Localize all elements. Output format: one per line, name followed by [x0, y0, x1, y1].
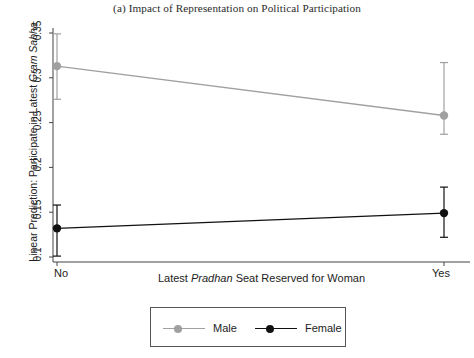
y-axis-tick-label: 0.25: [32, 105, 43, 135]
chart-legend: MaleFemale: [150, 307, 346, 347]
legend-line-swatch: [255, 328, 297, 329]
data-point-marker: [53, 62, 61, 70]
x-axis-tick-label: Yes: [432, 267, 450, 279]
legend-label: Female: [305, 322, 342, 334]
legend-label: Male: [213, 322, 237, 334]
legend-marker-dot: [174, 325, 182, 333]
legend-line-swatch: [163, 328, 205, 329]
series-line: [57, 213, 444, 228]
legend-item-male: Male: [163, 320, 237, 336]
figure-panel: (a) Impact of Representation on Politica…: [0, 0, 474, 358]
series-male: [53, 34, 448, 134]
y-axis-tick-label: 0.35: [32, 16, 43, 46]
y-axis-tick-label: 0.2: [32, 150, 43, 180]
y-axis-tick-label: 0.15: [32, 195, 43, 225]
legend-item-female: Female: [255, 320, 342, 336]
series-line: [57, 66, 444, 115]
data-point-marker: [440, 209, 448, 217]
x-axis-tick-label: No: [54, 267, 68, 279]
y-axis-tick-label: 0.1: [32, 240, 43, 270]
legend-marker-dot: [266, 325, 274, 333]
series-female: [53, 187, 448, 256]
data-point-marker: [440, 111, 448, 119]
y-axis-tick-label: 0.3: [32, 60, 43, 90]
data-point-marker: [53, 224, 61, 232]
plot-area: [0, 0, 474, 358]
